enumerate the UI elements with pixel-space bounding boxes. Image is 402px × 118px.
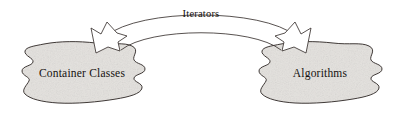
iterators-label: Iterators — [183, 8, 220, 19]
algorithms-label: Algorithms — [293, 67, 348, 80]
ribbon-inner-arc — [121, 33, 281, 50]
node-algorithms[interactable]: Algorithms — [259, 42, 382, 104]
node-container-classes[interactable]: Container Classes — [22, 42, 145, 104]
diagram-svg: Container Classes Algorithms Iterators — [0, 0, 402, 118]
diagram-canvas: Container Classes Algorithms Iterators — [0, 0, 402, 118]
container-classes-label: Container Classes — [39, 67, 125, 79]
